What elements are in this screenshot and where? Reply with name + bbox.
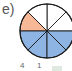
answer-box[interactable] — [52, 66, 62, 71]
caption-number-1: 4 — [20, 61, 24, 70]
caption-number-2: 1 — [37, 61, 41, 70]
fraction-circle — [0, 0, 72, 71]
